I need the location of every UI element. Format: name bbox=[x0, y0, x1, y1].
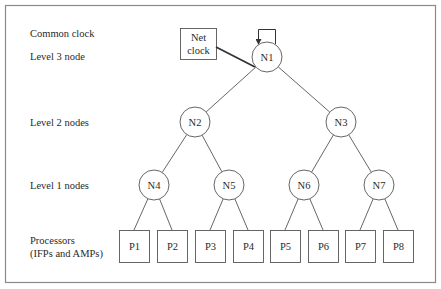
label-level-2-nodes: Level 2 nodes bbox=[30, 116, 89, 129]
processor-p8: P8 bbox=[384, 231, 414, 263]
tree-node-n5: N5 bbox=[214, 170, 244, 200]
processor-edge bbox=[210, 199, 223, 230]
processor-edge bbox=[360, 199, 373, 230]
processor-p5: P5 bbox=[271, 231, 301, 263]
tree-edges bbox=[134, 67, 398, 230]
diagram-canvas: Net clock N1N2N3N4N5N6N7 P1P2P3P4P5P6P7P… bbox=[0, 0, 441, 289]
tree-edge bbox=[162, 135, 187, 173]
processor-label: P6 bbox=[318, 241, 329, 252]
processor-p3: P3 bbox=[196, 231, 226, 263]
processor-edge bbox=[160, 199, 172, 230]
processor-label: P8 bbox=[393, 241, 404, 252]
processor-label: P3 bbox=[205, 241, 216, 252]
tree-node-n7: N7 bbox=[364, 170, 394, 200]
label-common-clock: Common clock bbox=[30, 27, 94, 40]
node-label: N3 bbox=[335, 117, 348, 128]
processor-edge bbox=[235, 199, 248, 230]
processor-edge bbox=[285, 199, 298, 230]
label-level-3-node: Level 3 node bbox=[30, 50, 85, 63]
processor-p4: P4 bbox=[234, 231, 264, 263]
label-level-1-nodes: Level 1 nodes bbox=[30, 179, 89, 192]
label-processors: Processors bbox=[30, 234, 75, 247]
node-label: N4 bbox=[148, 180, 162, 191]
processor-p1: P1 bbox=[120, 231, 150, 263]
tree-edge bbox=[312, 135, 334, 172]
processor-edge bbox=[385, 199, 398, 230]
processor-p6: P6 bbox=[309, 231, 339, 263]
node-label: N6 bbox=[298, 180, 311, 191]
processor-label: P2 bbox=[167, 241, 178, 252]
processor-boxes: P1P2P3P4P5P6P7P8 bbox=[120, 231, 414, 263]
processor-label: P7 bbox=[355, 241, 366, 252]
node-label: N2 bbox=[189, 117, 202, 128]
processor-edge bbox=[310, 199, 323, 230]
processor-label: P4 bbox=[243, 241, 255, 252]
tree-node-n4: N4 bbox=[139, 170, 169, 200]
tree-node-n1: N1 bbox=[252, 42, 282, 72]
tree-node-n2: N2 bbox=[180, 107, 210, 137]
tree-edge bbox=[278, 67, 329, 112]
processor-label: P5 bbox=[280, 241, 291, 252]
node-label: N1 bbox=[261, 52, 274, 63]
processor-label: P1 bbox=[129, 241, 140, 252]
processor-p7: P7 bbox=[346, 231, 376, 263]
net-clock-label-line1: Net bbox=[191, 32, 206, 43]
node-label: N7 bbox=[373, 180, 386, 191]
tree-edge bbox=[206, 67, 256, 112]
tree-node-n3: N3 bbox=[326, 107, 356, 137]
tree-edge bbox=[349, 135, 372, 172]
label-processors-types: (IFPs and AMPs) bbox=[30, 247, 103, 260]
processor-p2: P2 bbox=[158, 231, 188, 263]
tree-edge bbox=[202, 135, 222, 172]
net-clock-connector bbox=[216, 47, 255, 67]
processor-edge bbox=[134, 199, 148, 230]
tree-nodes: N1N2N3N4N5N6N7 bbox=[139, 42, 394, 200]
node-label: N5 bbox=[223, 180, 236, 191]
net-clock-label-line2: clock bbox=[187, 45, 210, 56]
tree-node-n6: N6 bbox=[289, 170, 319, 200]
